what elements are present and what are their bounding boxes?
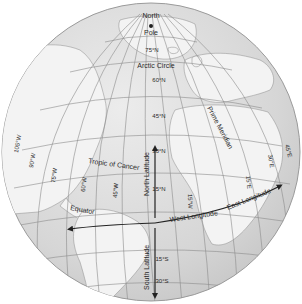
- lat-75n-label: 75°N: [145, 47, 158, 53]
- lat-15s-label: 15°S: [155, 256, 168, 262]
- lon-45w-label: 45°W: [112, 183, 119, 198]
- lat-30n-label: 30°N: [152, 148, 165, 154]
- lat-30s-label: 30°S: [155, 278, 168, 284]
- north-pole-label-line2: Pole: [144, 29, 158, 36]
- arctic-circle-label: Arctic Circle: [137, 62, 174, 69]
- north-latitude-label: North Latitude: [143, 152, 150, 196]
- lat-15n-label: 15°N: [152, 186, 165, 192]
- south-latitude-label: South Latitude: [143, 245, 150, 290]
- lat-60n-label: 60°N: [152, 77, 165, 83]
- lon-15w-label: 15°W: [187, 194, 194, 209]
- globe-diagram: North Pole 75°N Arctic Circle 60°N 45°N …: [0, 0, 302, 304]
- lat-45n-label: 45°N: [152, 113, 165, 119]
- north-pole-label-line1: North: [142, 12, 159, 19]
